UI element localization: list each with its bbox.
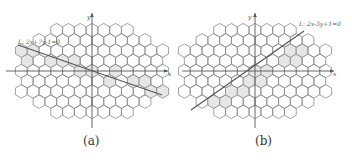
x-axis-label-b: x xyxy=(333,70,336,77)
line-label-a: L: 2x+7y-1=0 xyxy=(18,38,60,45)
hex-cell xyxy=(51,23,63,37)
hex-cell xyxy=(302,34,314,48)
y-axis-label-b: y xyxy=(248,13,251,20)
caption-b: (b) xyxy=(255,134,272,148)
hex-cell xyxy=(178,44,190,58)
y-axis-arrow-icon xyxy=(90,13,94,17)
hex-cell xyxy=(273,23,285,37)
hex-cell xyxy=(320,44,332,58)
hex-cell xyxy=(261,23,273,37)
hex-cell xyxy=(157,44,169,58)
hex-cell xyxy=(196,34,208,48)
x-axis-label-a: x xyxy=(168,70,171,77)
line-label-b: L: 2x-3y+1=0 xyxy=(299,20,341,27)
hex-cell xyxy=(214,23,226,37)
hex-cell xyxy=(139,34,151,48)
y-axis-arrow-icon xyxy=(253,13,257,17)
y-axis-label-a: y xyxy=(87,13,90,20)
hex-cell xyxy=(74,23,86,37)
hex-cell xyxy=(98,23,110,37)
panel-a: L: 2x+7y-1=0 y x (a) xyxy=(0,0,176,160)
hex-cell xyxy=(226,23,238,37)
hex-cell xyxy=(237,23,249,37)
hex-cell xyxy=(284,23,296,37)
hex-cell xyxy=(110,23,122,37)
caption-a: (a) xyxy=(83,134,100,148)
hex-cell xyxy=(121,23,133,37)
hex-cell xyxy=(63,23,75,37)
panel-b: L: 2x-3y+1=0 y x (b) xyxy=(176,0,352,160)
